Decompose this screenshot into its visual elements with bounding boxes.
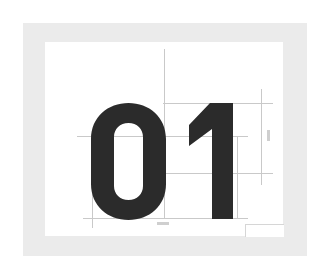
digit-one-glyph: [188, 103, 235, 219]
dimension-guide-line: [261, 89, 262, 185]
width-dimension-label: [157, 222, 169, 225]
corner-notch: [245, 224, 284, 237]
right-guide-line: [237, 136, 238, 218]
digit-zero-glyph: [91, 103, 166, 220]
height-dimension-label: [267, 130, 270, 141]
